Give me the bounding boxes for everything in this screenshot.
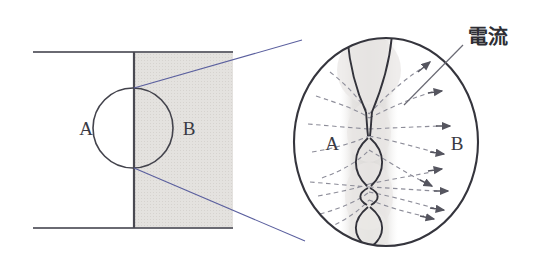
- current-arrow: [430, 152, 444, 154]
- diagram-svg: A B: [0, 0, 541, 268]
- figure-root: A B: [0, 0, 541, 268]
- right-label-b: B: [451, 133, 464, 154]
- current-arrow: [420, 180, 432, 186]
- right-label-a: A: [325, 133, 339, 154]
- left-label-a: A: [79, 118, 93, 139]
- region-b-shading: [134, 52, 233, 228]
- current-plume: [337, 36, 401, 254]
- left-label-b: B: [183, 118, 196, 139]
- left-schematic-panel: A B: [33, 52, 233, 228]
- current-arrow: [420, 216, 434, 219]
- current-arrow: [418, 62, 430, 72]
- current-arrow: [430, 208, 444, 210]
- current-label: 電流: [468, 25, 508, 49]
- current-arrow: [428, 91, 442, 93]
- current-arrow: [428, 169, 442, 171]
- current-annotation: 電流: [404, 25, 508, 105]
- right-magnified-panel: A B: [294, 34, 478, 254]
